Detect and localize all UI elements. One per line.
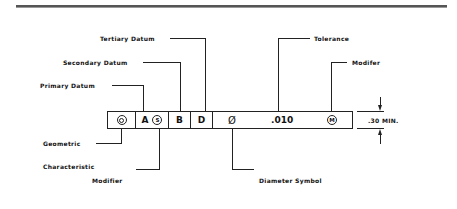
leader-geometric-v (121, 129, 122, 144)
regardless-of-feature-size-icon: S (152, 115, 162, 125)
secondary-datum-letter: B (176, 115, 183, 125)
leader-secondary-v (180, 62, 181, 111)
cell-geometric-characteristic (108, 112, 136, 128)
leader-tertiary-h (170, 38, 206, 39)
leader-tolerance-v (278, 38, 279, 111)
label-diameter-symbol: Diameter Symbol (259, 177, 322, 184)
label-primary-datum: Primary Datum (40, 82, 95, 89)
label-modifier-bottom: Modifier (92, 177, 123, 184)
top-rule (16, 5, 447, 8)
leader-modifier-bottom-v (159, 129, 160, 170)
cell-tertiary-datum: D (191, 112, 213, 128)
leader-diameter-v (232, 129, 233, 170)
primary-datum-letter: A (142, 115, 149, 125)
arrow-down-icon (378, 105, 382, 111)
tolerance-value: .010 (271, 115, 293, 125)
diameter-icon: Ø (228, 115, 236, 126)
dim-arrow-bottom-shaft (380, 135, 381, 144)
label-geometric-line2: Characteristic (43, 163, 95, 170)
cell-tolerance: Ø .010 M (213, 112, 352, 128)
leader-tolerance-h (278, 38, 310, 39)
tertiary-datum-letter: D (198, 115, 205, 125)
leader-secondary-h (143, 62, 181, 63)
leader-modifier-bottom-h (136, 169, 160, 170)
label-geometric-line1: Geometric (43, 140, 81, 147)
cell-primary-datum: A S (136, 112, 169, 128)
feature-control-frame: A S B D Ø .010 M (107, 111, 353, 129)
leader-diameter-h (232, 169, 254, 170)
leader-primary-h (112, 85, 144, 86)
leader-geometric-h (96, 143, 122, 144)
concentricity-icon (117, 115, 127, 125)
height-dimension-label: .30 MIN. (368, 117, 399, 124)
leader-modifier-top-h (331, 62, 347, 63)
leader-modifier-top-v (331, 62, 332, 111)
arrow-up-icon (378, 129, 382, 135)
label-secondary-datum: Secondary Datum (63, 59, 128, 66)
label-modifier-top: Modifer (352, 59, 380, 66)
leader-primary-v (143, 85, 144, 111)
label-tolerance: Tolerance (314, 35, 349, 42)
leader-tertiary-v (205, 38, 206, 111)
maximum-material-condition-icon: M (327, 115, 337, 125)
dim-extension-top (357, 111, 384, 112)
cell-secondary-datum: B (169, 112, 191, 128)
label-tertiary-datum: Tertiary Datum (100, 35, 155, 42)
